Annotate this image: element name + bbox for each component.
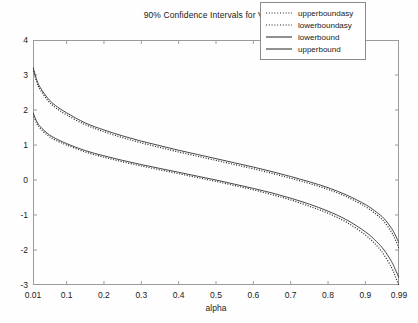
series-line-lowerboundasy — [33, 114, 399, 285]
legend-item: lowerboundasy — [261, 19, 365, 31]
x-tick-label: 0.99 — [379, 290, 418, 300]
x-tick-label: 0.1 — [47, 290, 87, 300]
x-tick-label: 0.5 — [196, 290, 236, 300]
x-tick-label: 0.3 — [121, 290, 161, 300]
solid-line-icon — [265, 33, 293, 41]
y-tick-label: 4 — [2, 35, 28, 45]
dotted-line-icon — [265, 9, 293, 17]
plot-canvas — [33, 40, 399, 285]
chart-legend: upperboundasylowerboundasylowerbounduppe… — [260, 2, 366, 60]
legend-label: lowerboundasy — [298, 21, 352, 30]
legend-label: upperboundasy — [298, 9, 353, 18]
axes-frame — [34, 41, 399, 285]
y-tick-label: -2 — [2, 245, 28, 255]
x-tick-label: 0.4 — [159, 290, 199, 300]
y-tick-label: 1 — [2, 140, 28, 150]
x-tick-label: 0.2 — [84, 290, 124, 300]
x-tick-label: 0.7 — [271, 290, 311, 300]
legend-label: upperbound — [298, 45, 341, 54]
series-line-upperbound — [33, 67, 399, 243]
legend-label: lowerbound — [298, 33, 339, 42]
x-axis-title: alpha — [33, 303, 399, 313]
chart-figure: 90% Confidence Intervals for VaR 43210-1… — [0, 0, 418, 323]
legend-item: upperboundasy — [261, 7, 365, 19]
y-tick-label: 0 — [2, 175, 28, 185]
y-tick-label: 2 — [2, 105, 28, 115]
y-tick-label: -3 — [2, 280, 28, 290]
solid-line-icon — [265, 45, 293, 53]
x-tick-label: 0.8 — [308, 290, 348, 300]
legend-item: upperbound — [261, 43, 365, 55]
dotted-line-icon — [265, 21, 293, 29]
plot-area: 43210-1-2-3 0.010.10.20.30.40.50.60.70.8… — [33, 40, 399, 285]
y-tick-label: -1 — [2, 210, 28, 220]
legend-item: lowerbound — [261, 31, 365, 43]
y-tick-label: 3 — [2, 70, 28, 80]
x-tick-label: 0.6 — [233, 290, 273, 300]
